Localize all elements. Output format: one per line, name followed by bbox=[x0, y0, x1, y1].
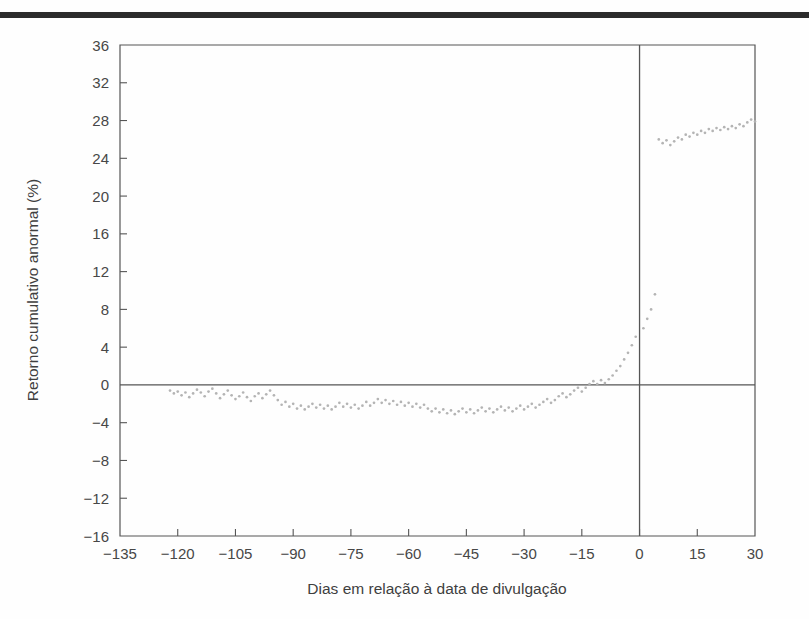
y-tick-label: −16 bbox=[84, 528, 109, 545]
x-tick-label: −90 bbox=[280, 545, 305, 562]
x-tick-label: 30 bbox=[747, 545, 764, 562]
y-tick-label: 8 bbox=[101, 301, 109, 318]
y-axis-title: Retorno cumulativo anormal (%) bbox=[24, 179, 41, 401]
y-tick-label: 32 bbox=[92, 74, 109, 91]
x-axis-title: Dias em relação à data de divulgação bbox=[307, 580, 566, 597]
x-tick-label: −75 bbox=[338, 545, 363, 562]
y-tick-label: 0 bbox=[101, 376, 109, 393]
reference-lines bbox=[120, 45, 755, 536]
x-axis-ticks bbox=[178, 529, 698, 536]
x-tick-label: −135 bbox=[103, 545, 137, 562]
y-tick-label: 12 bbox=[92, 263, 109, 280]
figure-page: −135−120−105−90−75−60−45−30−1501530 −16−… bbox=[0, 0, 809, 619]
abnormal-return-scatter-chart: −135−120−105−90−75−60−45−30−1501530 −16−… bbox=[0, 0, 809, 619]
y-tick-label: −4 bbox=[92, 414, 109, 431]
y-axis-ticks bbox=[120, 83, 127, 498]
plot-frame bbox=[120, 45, 755, 536]
x-tick-label: 0 bbox=[635, 545, 643, 562]
y-tick-label: −8 bbox=[92, 452, 109, 469]
data-point-group bbox=[169, 118, 757, 415]
x-axis-tick-labels: −135−120−105−90−75−60−45−30−1501530 bbox=[103, 545, 763, 562]
y-tick-label: 4 bbox=[101, 339, 109, 356]
y-axis-tick-labels: −16−12−8−404812162024283236 bbox=[84, 37, 109, 545]
x-tick-label: 15 bbox=[689, 545, 706, 562]
y-tick-label: −12 bbox=[84, 490, 109, 507]
y-tick-label: 36 bbox=[92, 37, 109, 54]
y-tick-label: 28 bbox=[92, 112, 109, 129]
y-tick-label: 20 bbox=[92, 188, 109, 205]
x-tick-label: −120 bbox=[161, 545, 195, 562]
data-series bbox=[169, 118, 757, 415]
x-tick-label: −105 bbox=[219, 545, 253, 562]
x-tick-label: −60 bbox=[396, 545, 421, 562]
y-tick-label: 24 bbox=[92, 150, 109, 167]
chart-figure: −135−120−105−90−75−60−45−30−1501530 −16−… bbox=[0, 0, 809, 619]
x-tick-label: −45 bbox=[454, 545, 479, 562]
x-tick-label: −30 bbox=[511, 545, 536, 562]
y-tick-label: 16 bbox=[92, 225, 109, 242]
x-tick-label: −15 bbox=[569, 545, 594, 562]
